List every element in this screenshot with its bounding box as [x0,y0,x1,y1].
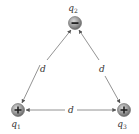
charge-label-q1: q1 [11,119,21,130]
side-label-q1-q3: d [68,105,74,115]
side-label-q1-q2: d [40,64,46,74]
side-q1-q3: d [26,105,116,115]
charge-q3: q3 [117,104,130,131]
side-q1-q2: d [22,30,71,103]
charge-triangle-diagram: d d d q2 q1 q3 [0,0,139,134]
side-q2-q3: d [79,30,120,103]
minus-sign-icon [72,22,79,24]
charge-q1: q1 [11,104,24,131]
charge-label-q2: q2 [68,3,78,14]
charge-label-q3: q3 [117,119,127,130]
side-label-q2-q3: d [99,64,105,74]
charge-q2: q2 [68,3,81,30]
